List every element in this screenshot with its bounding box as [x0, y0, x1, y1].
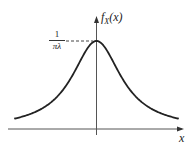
peak-label-denominator: πλ	[49, 41, 65, 51]
y-axis-label: fX(x)	[101, 11, 123, 23]
y-axis	[94, 16, 99, 135]
x-axis-label: x	[179, 132, 184, 144]
cauchy-pdf-figure	[0, 0, 196, 148]
peak-value-label: 1 πλ	[49, 30, 65, 51]
y-axis-arrow-icon	[94, 16, 99, 23]
y-axis-label-arg: (x)	[109, 10, 122, 24]
y-axis-label-sub: X	[104, 17, 109, 26]
peak-label-numerator: 1	[49, 30, 65, 41]
